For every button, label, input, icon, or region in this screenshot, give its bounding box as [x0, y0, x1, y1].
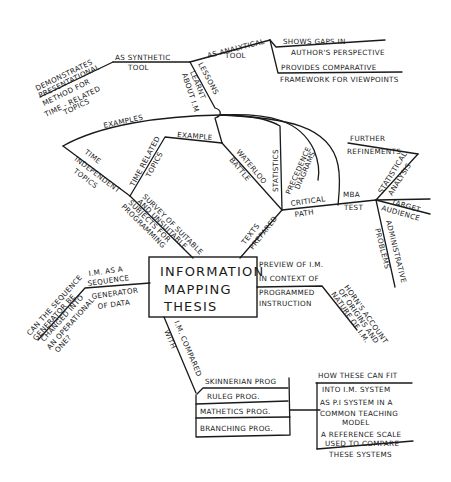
preview-label1: PREVIEW OF I.M.	[259, 260, 323, 269]
further-label: FURTHER	[350, 134, 385, 143]
fit-item3a-label: A REFERENCE SCALE	[321, 430, 401, 439]
branching-label: BRANCHING PROG.	[200, 424, 273, 433]
refinements-label: REFINEMENTS	[347, 147, 401, 156]
mind-map: INFORMATION MAPPING THESIS AS SYNTHETIC …	[0, 0, 451, 482]
preview-label4: INSTRUCTION	[259, 299, 312, 308]
path-label: PATH	[294, 207, 314, 219]
mathetics-label: MATHETICS PROG.	[200, 407, 271, 416]
preview-label3: PROGRAMMED	[259, 288, 315, 297]
example-label: EXAMPLE	[177, 130, 213, 142]
central-title-line3: THESIS	[163, 299, 217, 314]
provides-comparative-label: PROVIDES COMPARATIVE	[281, 63, 377, 72]
fit-item1-label: INTO I.M. SYSTEM	[322, 385, 390, 394]
shows-gaps-label: SHOWS GAPS IN	[283, 37, 346, 46]
mba-label: MBA	[343, 190, 360, 199]
test-label: TEST	[343, 203, 363, 212]
authors-perspective-label: AUTHOR'S PERSPECTIVE	[291, 48, 385, 57]
fit-item2b-label: COMMON TEACHING	[320, 409, 398, 418]
examples-label: EXAMPLES	[103, 113, 145, 130]
fit-item3b-label: USED TO COMPARE	[325, 439, 399, 448]
framework-viewpoints-label: FRAMEWORK FOR VIEWPOINTS	[280, 75, 399, 84]
skinnerian-label: SKINNERIAN PROG	[205, 377, 276, 386]
synthetic-tool-label2: TOOL	[127, 63, 149, 72]
fit-item2a-label: AS P.I SYSTEM IN A	[320, 398, 393, 407]
synthetic-tool-label: AS SYNTHETIC	[115, 53, 171, 62]
ruleg-label: RULEG PROG.	[207, 392, 260, 401]
fit-item3c-label: THESE SYSTEMS	[328, 450, 392, 459]
analytical-tool-label2: TOOL	[224, 51, 246, 60]
central-title-line2: MAPPING	[164, 282, 232, 297]
fit-item2c-label: MODEL	[342, 418, 369, 427]
fit-header-label: HOW THESE CAN FIT	[318, 371, 398, 380]
statistics-label: STATISTICS	[271, 149, 280, 192]
preview-label2: IN CONTEXT OF	[259, 274, 319, 283]
central-title-line1: INFORMATION	[160, 264, 264, 279]
